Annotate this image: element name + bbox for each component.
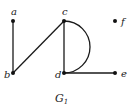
node-e: [113, 71, 117, 75]
node-f: [113, 19, 117, 23]
edge-b-c: [13, 21, 64, 73]
node-a: [11, 19, 15, 23]
node-label-c: c: [62, 6, 68, 17]
caption-main: G: [55, 92, 64, 105]
graph-diagram: a b c d e f G1: [0, 0, 134, 108]
graph-caption: G1: [55, 92, 68, 106]
node-c: [62, 19, 66, 23]
node-b: [11, 71, 15, 75]
node-label-e: e: [121, 68, 127, 79]
node-label-a: a: [11, 6, 17, 17]
node-label-f: f: [120, 16, 127, 27]
edge-c-d-arc: [64, 21, 90, 73]
caption-subscript: 1: [64, 98, 68, 106]
node-label-b: b: [4, 69, 10, 80]
node-label-d: d: [55, 69, 61, 80]
node-d: [62, 71, 66, 75]
